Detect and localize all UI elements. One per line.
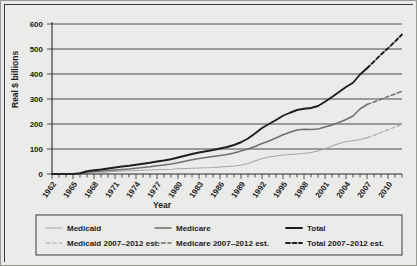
chart-frame: 0100200300400500600 19621965196819711974… bbox=[4, 4, 413, 262]
y-tick-label-300: 300 bbox=[30, 95, 44, 104]
y-tick-label-200: 200 bbox=[30, 120, 44, 129]
y-tick-label-400: 400 bbox=[30, 70, 44, 79]
legend-label-total-est: Total 2007–2012 est. bbox=[307, 239, 384, 248]
medicare-medicaid-spending-line-chart: 0100200300400500600 19621965196819711974… bbox=[5, 5, 414, 263]
legend-label-total: Total bbox=[307, 224, 326, 233]
y-tick-label-600: 600 bbox=[30, 20, 44, 29]
y-tick-label-100: 100 bbox=[30, 145, 44, 154]
x-axis-title: Year bbox=[153, 200, 172, 210]
y-axis-title: Real $ billions bbox=[10, 51, 20, 108]
legend-box bbox=[36, 215, 402, 255]
chart-figure: 0100200300400500600 19621965196819711974… bbox=[0, 0, 417, 266]
legend-label-medicare-est: Medicare 2007–2012 est. bbox=[176, 239, 269, 248]
y-tick-label-0: 0 bbox=[39, 170, 44, 179]
legend-label-medicaid: Medicaid bbox=[67, 224, 101, 233]
legend-label-medicare: Medicare bbox=[176, 224, 211, 233]
y-tick-label-500: 500 bbox=[30, 45, 44, 54]
legend-label-medicaid-est: Medicaid 2007–2012 est. bbox=[67, 239, 160, 248]
